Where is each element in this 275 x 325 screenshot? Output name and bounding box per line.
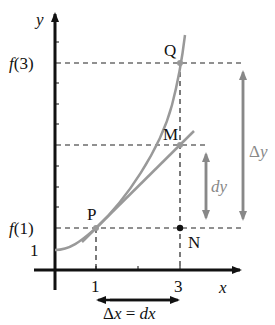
point-p-label: P <box>87 205 96 224</box>
y-tick-1-label: 1 <box>30 241 39 260</box>
f1-label: f(1) <box>9 219 34 238</box>
point-q-label: Q <box>164 41 176 60</box>
delta-x-label: Δx = dx <box>103 304 156 323</box>
x-tick-1-label: 1 <box>91 277 100 296</box>
f3-label: f(3) <box>9 54 34 73</box>
x-axis-label: x <box>218 278 227 297</box>
x-tick-3-label: 3 <box>174 277 183 296</box>
point-m-label: M <box>163 125 178 144</box>
point-q <box>177 60 183 66</box>
point-n-label: N <box>188 233 200 252</box>
point-n <box>177 225 183 231</box>
dy-label: dy <box>211 177 228 196</box>
differential-diagram: y x f(3) f(1) 1 1 3 P Q M N dy Δy Δx = d… <box>0 0 275 325</box>
tangent-line <box>82 131 194 242</box>
y-axis-label: y <box>34 10 44 29</box>
delta-y-label: Δy <box>249 142 268 161</box>
point-p <box>93 225 99 231</box>
